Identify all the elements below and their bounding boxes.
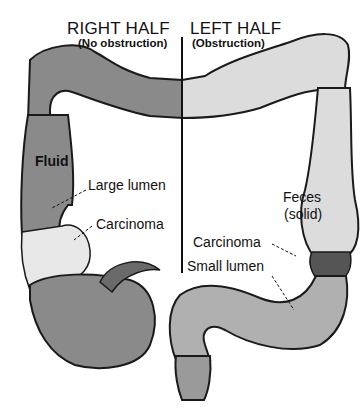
- fluid-label: Fluid: [35, 154, 68, 168]
- feces-state-label: (solid): [284, 207, 322, 221]
- carcinoma-left-mass: [310, 252, 351, 278]
- sigmoid-colon: [170, 276, 347, 360]
- carcinoma-right-label: Carcinoma: [96, 217, 164, 231]
- left-half-title: LEFT HALF: [190, 20, 281, 37]
- feces-label: Feces: [283, 190, 321, 204]
- right-half-title: RIGHT HALF: [67, 20, 170, 37]
- left-half-subtitle: (Obstruction): [192, 38, 265, 50]
- large-lumen-label: Large lumen: [88, 178, 166, 192]
- midline-divider: [181, 37, 183, 273]
- right-half-subtitle: (No obstruction): [78, 38, 167, 50]
- transverse-colon-right: [28, 45, 182, 120]
- ascending-colon: [21, 115, 73, 235]
- rectum: [175, 356, 210, 400]
- small-lumen-label: Small lumen: [187, 259, 264, 273]
- descending-colon: [301, 88, 358, 258]
- carcinoma-left-label: Carcinoma: [193, 235, 261, 249]
- cecum: [30, 275, 155, 369]
- carcinoma-left-leader: [272, 244, 296, 256]
